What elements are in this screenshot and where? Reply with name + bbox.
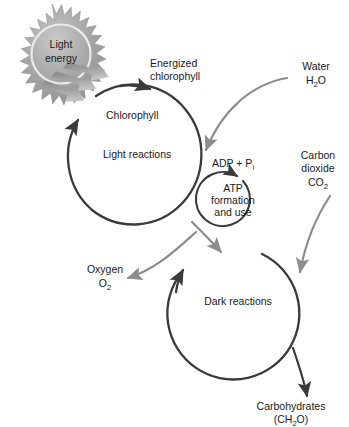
atp-label-line3: and use [214, 206, 252, 218]
energized-chlorophyll-label-line1: Energized [150, 57, 197, 69]
adp-pi-label: ADP + Pi [212, 157, 254, 172]
atp-label-line2: formation [211, 194, 255, 206]
atp-label-line1: ATP [223, 182, 243, 194]
light-energy-label-line2: energy [45, 52, 78, 64]
carbohydrates-output-arrow [293, 348, 307, 396]
photosynthesis-diagram: Light energy Chlorophyll Light reactions… [0, 0, 349, 427]
dark-reactions-cycle-arc [167, 254, 299, 379]
dark-reactions-label: Dark reactions [204, 295, 272, 307]
light-reactions-return-arrow [68, 120, 92, 210]
light-energy-label-line1: Light [50, 38, 73, 50]
light-reactions-label: Light reactions [103, 148, 171, 160]
energized-chlorophyll-label-line2: chlorophyll [150, 70, 200, 82]
chlorophyll-label: Chlorophyll [106, 109, 159, 121]
carbon-dioxide-label-line1: Carbon [301, 149, 336, 161]
oxygen-output-arrow [128, 232, 196, 278]
water-input-arrow [206, 78, 287, 150]
water-formula-label: H2O [306, 74, 326, 89]
oxygen-label: Oxygen [87, 263, 123, 275]
water-label: Water [302, 60, 330, 72]
atp-transfer-arrow [192, 222, 221, 252]
carbohydrates-label: Carbohydrates [257, 400, 326, 412]
carbon-dioxide-input-arrow [300, 196, 330, 272]
carbon-dioxide-formula-label: CO2 [308, 176, 328, 191]
diagram-canvas: Light energy Chlorophyll Light reactions… [0, 0, 349, 427]
carbohydrates-formula-label: (CH2O) [274, 413, 309, 427]
oxygen-formula-label: O2 [99, 277, 111, 292]
carbon-dioxide-label-line2: dioxide [301, 162, 334, 174]
